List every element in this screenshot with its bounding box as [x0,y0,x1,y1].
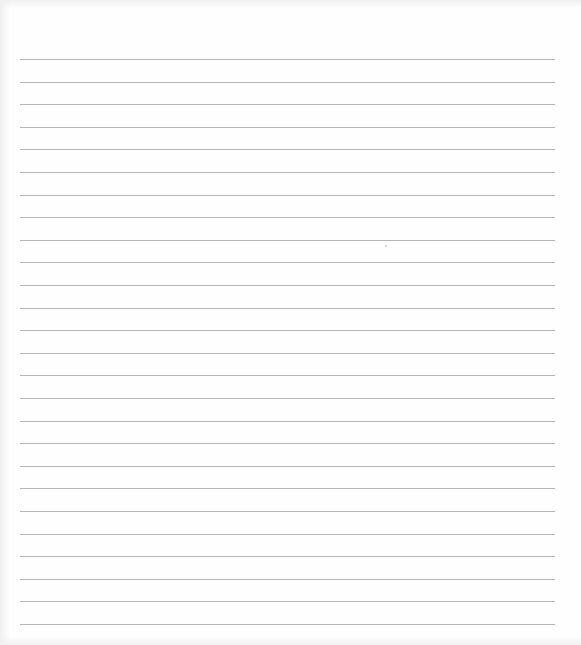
lined-paper-page [0,0,581,645]
paper-speck [385,245,387,247]
ruled-line [20,82,555,83]
ruled-line [20,398,555,399]
ruled-line [20,172,555,173]
ruled-line [20,285,555,286]
ruled-line [20,443,555,444]
ruled-line [20,308,555,309]
ruled-line [20,104,555,105]
ruled-line [20,421,555,422]
ruled-line [20,262,555,263]
ruled-line [20,149,555,150]
page-top-edge [0,0,581,8]
ruled-line [20,353,555,354]
ruled-line [20,511,555,512]
page-bottom-edge [0,637,581,645]
page-left-edge [0,0,10,645]
ruled-line [20,601,555,602]
ruled-line [20,240,555,241]
ruled-line [20,534,555,535]
ruled-line [20,375,555,376]
ruled-line [20,488,555,489]
ruled-line [20,217,555,218]
ruled-line [20,624,555,625]
ruled-line [20,556,555,557]
ruled-line [20,127,555,128]
ruled-line [20,579,555,580]
ruled-line [20,466,555,467]
ruled-line [20,59,555,60]
ruled-line [20,330,555,331]
ruled-line [20,195,555,196]
